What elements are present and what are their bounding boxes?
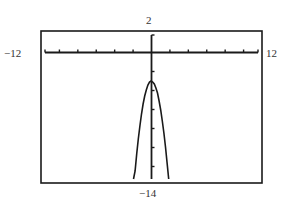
- axes: [45, 35, 258, 179]
- calculator-graph-screen: [0, 0, 287, 205]
